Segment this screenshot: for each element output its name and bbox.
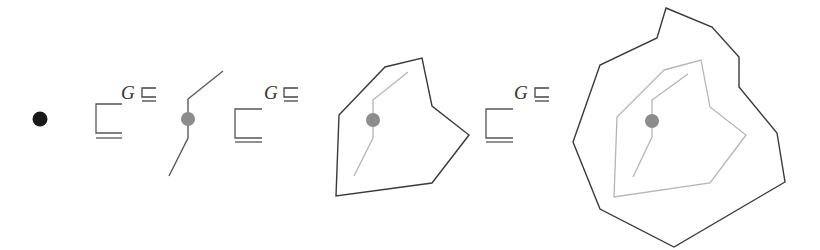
center-dot-1 — [181, 112, 195, 126]
inner-path-1 — [354, 72, 408, 176]
order-symbol-1: G — [96, 82, 156, 138]
stage-polygon — [336, 58, 469, 196]
stage-path — [169, 71, 223, 176]
initial-point — [33, 112, 48, 127]
small-subseteq-icon-3 — [535, 88, 549, 101]
outer-polygon-1 — [336, 58, 469, 196]
g-label-3: G — [514, 82, 528, 103]
order-symbol-2: G — [235, 82, 298, 142]
small-subseteq-icon-2 — [284, 88, 298, 101]
inner-path-2 — [633, 74, 688, 177]
center-dot-2 — [366, 113, 380, 127]
g-label-2: G — [264, 82, 278, 103]
large-subseteq-icon-1 — [96, 104, 122, 138]
order-symbol-3: G — [486, 82, 549, 142]
g-label-1: G — [121, 82, 135, 103]
large-subseteq-icon-2 — [235, 109, 262, 142]
large-subseteq-icon-3 — [486, 109, 513, 142]
center-dot-3 — [645, 114, 659, 128]
diagram-canvas: G G G — [0, 0, 820, 250]
stage-nested-polygon — [573, 8, 785, 247]
small-subseteq-icon-1 — [142, 88, 156, 101]
path-line — [169, 71, 223, 176]
outer-polygon-2 — [573, 8, 785, 247]
